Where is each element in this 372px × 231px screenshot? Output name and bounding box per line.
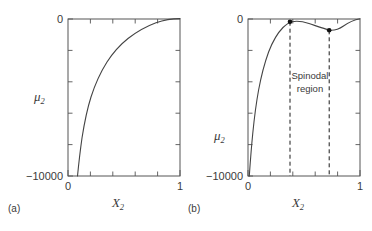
svg-text:X2: X2 — [111, 195, 125, 212]
svg-text:μ2: μ2 — [33, 89, 46, 106]
svg-text:X2: X2 — [291, 195, 305, 212]
panel-a-label: (a) — [8, 203, 20, 214]
panel-b-ylabel-sub: 2 — [221, 135, 226, 145]
panel-b-x-axis-title: X2 — [291, 195, 305, 212]
marker-local-maximum — [288, 19, 293, 24]
panel-b-curve — [249, 19, 360, 176]
svg-text:μ2: μ2 — [213, 128, 226, 145]
panel-b-xlabel-sub: 2 — [300, 202, 305, 212]
panel-b: Spinodal region 0 1 0 −10000 X2 μ2 (b) — [188, 13, 363, 214]
marker-local-minimum — [327, 28, 332, 33]
panel-b-x-ticks-top — [270, 19, 337, 24]
panel-b-xtick-1: 1 — [357, 180, 363, 192]
panel-a-y-axis-title: μ2 — [33, 89, 46, 106]
panel-a-curve — [78, 19, 181, 176]
figure-container: 0 1 0 −10000 X2 μ2 (a) — [0, 0, 372, 231]
panel-b-xtick-0: 0 — [245, 180, 251, 192]
panel-b-x-ticks — [248, 170, 360, 176]
panel-a-ylabel-sub: 2 — [41, 96, 46, 106]
panel-a: 0 1 0 −10000 X2 μ2 (a) — [8, 13, 183, 214]
panel-b-y-axis-title: μ2 — [213, 128, 226, 145]
panel-a-y-ticks-right — [176, 50, 181, 144]
panel-a-x-ticks-top — [90, 19, 157, 24]
panel-a-x-axis-title: X2 — [111, 195, 125, 212]
panel-a-ytick-0: 0 — [57, 13, 63, 25]
panel-b-ytick-min: −10000 — [206, 170, 243, 182]
panel-a-xtick-0: 0 — [65, 180, 71, 192]
panel-a-xlabel-sub: 2 — [120, 202, 125, 212]
panel-b-y-ticks-right — [356, 50, 361, 144]
panel-a-xtick-1: 1 — [177, 180, 183, 192]
panel-a-ytick-min: −10000 — [26, 170, 63, 182]
panel-b-y-ticks — [248, 19, 253, 176]
panel-a-y-ticks — [68, 19, 73, 176]
spinodal-label-line2: region — [297, 83, 323, 94]
panel-b-axes-frame — [248, 19, 360, 176]
panel-a-x-ticks — [68, 170, 180, 176]
panel-b-label: (b) — [188, 203, 200, 214]
spinodal-label-line1: Spinodal — [292, 70, 329, 81]
panel-b-ytick-0: 0 — [237, 13, 243, 25]
